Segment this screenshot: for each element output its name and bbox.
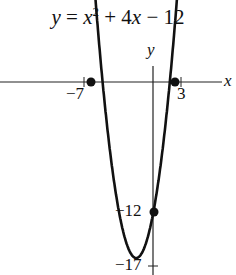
point-y-intercept-neg12 — [150, 208, 159, 217]
tick-label-neg12: −12 — [115, 201, 142, 221]
point-x-intercept-neg7 — [87, 78, 96, 87]
y-axis-label: y — [147, 40, 155, 60]
tick-label-neg7: −7 — [66, 84, 84, 104]
plot-area — [0, 0, 236, 275]
tick-label-3: 3 — [177, 84, 186, 104]
tick-label-neg17: −17 — [115, 255, 142, 275]
x-axis-label: x — [224, 71, 232, 91]
